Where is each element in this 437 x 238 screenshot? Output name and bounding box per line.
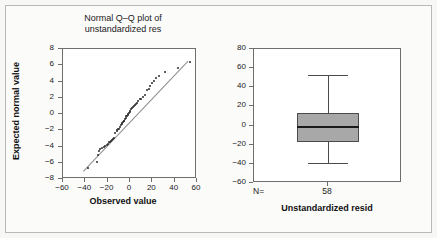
boxplot-y-tick — [249, 48, 253, 49]
qq-x-tick-label: 60 — [182, 184, 210, 192]
qq-plot-panel: Normal Q–Q plot of unstandardized res Ex… — [0, 0, 217, 238]
qq-plot-area — [62, 48, 196, 178]
boxplot-y-tick-label: −40 — [219, 159, 246, 167]
qq-data-point — [87, 167, 89, 169]
qq-data-point — [125, 117, 127, 119]
boxplot-x-axis-title: Unstandardized resid — [237, 203, 417, 213]
qq-title-line-2: unstandardized res — [48, 24, 198, 35]
qq-data-point — [148, 88, 150, 90]
qq-y-tick-label: 4 — [28, 77, 54, 85]
qq-y-tick-label: 0 — [28, 109, 54, 117]
qq-y-tick-label: −6 — [28, 158, 54, 166]
qq-data-point — [144, 94, 146, 96]
qq-data-point — [149, 85, 151, 87]
boxplot-y-tick-label: 40 — [219, 82, 246, 90]
qq-plot-title: Normal Q–Q plot of unstandardized res — [48, 13, 198, 35]
qq-x-tick — [62, 178, 63, 182]
qq-y-tick-label: 6 — [28, 60, 54, 68]
qq-x-tick — [174, 178, 175, 182]
boxplot-y-tick-label: 80 — [219, 44, 246, 52]
boxplot-y-tick-label: 20 — [219, 101, 246, 109]
qq-y-tick-label: −8 — [28, 174, 54, 182]
qq-data-point — [153, 80, 155, 82]
boxplot-panel: 806040200−20−40−60 N= 58 Unstandardized … — [217, 0, 437, 238]
qq-x-tick — [151, 178, 152, 182]
qq-y-tick — [58, 113, 62, 114]
boxplot-y-tick-label: 0 — [219, 121, 246, 129]
qq-x-tick — [84, 178, 85, 182]
lower-whisker-cap — [308, 163, 348, 164]
qq-data-point — [158, 75, 160, 77]
qq-y-tick — [58, 97, 62, 98]
qq-y-tick — [58, 81, 62, 82]
n-value-label: 58 — [253, 186, 401, 196]
qq-y-tick — [58, 48, 62, 49]
qq-data-point — [129, 110, 131, 112]
qq-data-point — [155, 77, 157, 79]
qq-data-point — [119, 126, 121, 128]
qq-y-tick-label: 8 — [28, 44, 54, 52]
boxplot-plot-area — [253, 48, 401, 182]
upper-whisker-line — [328, 75, 329, 113]
qq-data-point — [107, 143, 109, 145]
boxplot-y-tick — [249, 67, 253, 68]
qq-y-tick — [58, 146, 62, 147]
qq-data-point — [177, 67, 179, 69]
qq-y-tick-label: 2 — [28, 93, 54, 101]
median-line — [297, 126, 359, 128]
lower-whisker-line — [328, 142, 329, 163]
qq-data-point — [96, 161, 98, 163]
qq-y-tick-label: −4 — [28, 142, 54, 150]
qq-y-tick — [58, 162, 62, 163]
qq-data-point — [97, 154, 99, 156]
boxplot-y-tick — [249, 86, 253, 87]
qq-data-point — [137, 100, 139, 102]
qq-x-axis-title: Observed value — [48, 196, 198, 206]
figure-container: Normal Q–Q plot of unstandardized res Ex… — [0, 0, 437, 238]
qq-x-tick — [129, 178, 130, 182]
qq-data-point — [164, 71, 166, 73]
upper-whisker-cap — [308, 75, 348, 76]
qq-data-point — [142, 96, 144, 98]
boxplot-y-tick — [249, 182, 253, 183]
qq-data-point — [189, 61, 191, 63]
boxplot-y-tick — [249, 163, 253, 164]
qq-y-tick — [58, 64, 62, 65]
qq-x-tick — [196, 178, 197, 182]
boxplot-y-tick-label: −20 — [219, 140, 246, 148]
qq-data-point — [151, 82, 153, 84]
boxplot-y-tick-label: 60 — [219, 63, 246, 71]
qq-y-tick-label: −2 — [28, 125, 54, 133]
boxplot-y-tick — [249, 105, 253, 106]
boxplot-y-tick-label: −60 — [219, 178, 246, 186]
qq-title-line-1: Normal Q–Q plot of — [48, 13, 198, 24]
qq-y-tick — [58, 129, 62, 130]
boxplot-y-tick — [249, 125, 253, 126]
boxplot-y-tick — [249, 144, 253, 145]
qq-x-tick — [107, 178, 108, 182]
qq-y-axis-title: Expected normal value — [9, 46, 23, 176]
